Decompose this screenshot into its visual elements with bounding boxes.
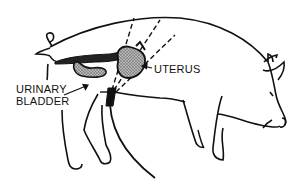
- hind-leg-back: [47, 64, 82, 169]
- ultrasound-probe: [106, 88, 116, 106]
- front-leg-front: [213, 96, 224, 160]
- urinary-bladder-label-line1: URINARY: [16, 83, 69, 95]
- urinary-bladder-label: URINARY BLADDER: [16, 83, 69, 107]
- front-leg-rear: [183, 100, 203, 147]
- tail: [36, 33, 54, 56]
- urinary-bladder-label-line2: BLADDER: [16, 95, 69, 107]
- probe-cable: [110, 92, 155, 178]
- urinary-bladder: [74, 62, 106, 77]
- pig-back-outline: [50, 17, 268, 62]
- belly-line: [114, 92, 185, 102]
- uterus: [117, 47, 145, 78]
- pig-head: [263, 54, 286, 128]
- uterus-label: UTERUS: [154, 63, 200, 75]
